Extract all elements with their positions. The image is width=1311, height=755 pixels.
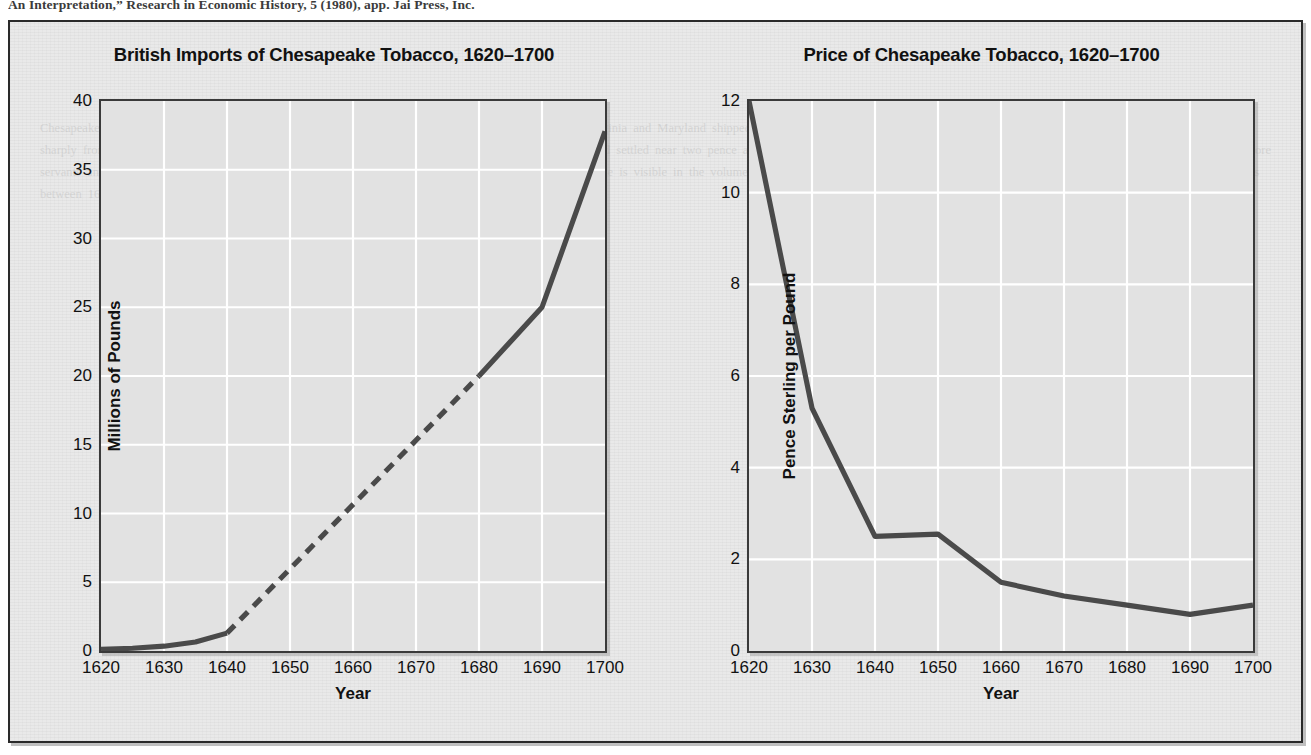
y-tick-label-price: 10 (721, 183, 740, 203)
x-tick-label-imports: 1640 (208, 658, 246, 678)
y-axis-title-imports: Millions of Pounds (105, 300, 125, 451)
chart-panel-price: Price of Chesapeake Tobacco, 1620–1700 0… (658, 22, 1305, 741)
x-axis-title-price: Year (749, 684, 1253, 704)
y-tick-label-price: 4 (731, 458, 740, 478)
plot-area-price: 0246810121620163016401650166016701680169… (747, 99, 1255, 653)
y-tick-label-imports: 35 (73, 160, 92, 180)
plot-svg-price (749, 101, 1253, 651)
x-tick-label-price: 1680 (1108, 658, 1146, 678)
x-tick-label-price: 1630 (793, 658, 831, 678)
plot-area-imports: 0510152025303540162016301640165016601670… (99, 99, 607, 653)
x-tick-label-price: 1690 (1171, 658, 1209, 678)
chart-title-price: Price of Chesapeake Tobacco, 1620–1700 (658, 44, 1305, 66)
y-tick-label-imports: 15 (73, 435, 92, 455)
y-tick-label-imports: 25 (73, 297, 92, 317)
x-tick-label-price: 1660 (982, 658, 1020, 678)
page-bleed-text: An Interpretation,” Research in Economic… (8, 0, 1303, 13)
plot-svg-imports (101, 101, 605, 651)
x-tick-label-imports: 1650 (271, 658, 309, 678)
chart-panel-imports: British Imports of Chesapeake Tobacco, 1… (10, 22, 658, 741)
y-axis-title-price: Pence Sterling per Pound (780, 273, 800, 480)
x-tick-label-price: 1620 (730, 658, 768, 678)
figure-container: Chesapeake tobacco planters faced a long… (8, 20, 1303, 743)
x-tick-label-imports: 1690 (523, 658, 561, 678)
y-tick-label-imports: 10 (73, 504, 92, 524)
x-axis-title-imports: Year (101, 684, 605, 704)
x-tick-label-price: 1640 (856, 658, 894, 678)
x-tick-label-imports: 1670 (397, 658, 435, 678)
x-tick-label-imports: 1620 (82, 658, 120, 678)
y-tick-label-imports: 5 (83, 572, 92, 592)
y-tick-label-price: 2 (731, 549, 740, 569)
y-tick-label-imports: 30 (73, 229, 92, 249)
y-tick-label-imports: 40 (73, 91, 92, 111)
x-tick-label-imports: 1700 (586, 658, 624, 678)
x-tick-label-imports: 1630 (145, 658, 183, 678)
x-tick-label-imports: 1680 (460, 658, 498, 678)
bleed-text-content: An Interpretation,” Research in Economic… (8, 0, 475, 12)
x-tick-label-price: 1670 (1045, 658, 1083, 678)
x-tick-label-imports: 1660 (334, 658, 372, 678)
figure-page: An Interpretation,” Research in Economic… (0, 0, 1311, 755)
y-tick-label-price: 12 (721, 91, 740, 111)
y-tick-label-price: 6 (731, 366, 740, 386)
y-tick-label-imports: 20 (73, 366, 92, 386)
x-tick-label-price: 1700 (1234, 658, 1272, 678)
y-tick-label-price: 8 (731, 274, 740, 294)
x-tick-label-price: 1650 (919, 658, 957, 678)
chart-title-imports: British Imports of Chesapeake Tobacco, 1… (10, 44, 658, 66)
